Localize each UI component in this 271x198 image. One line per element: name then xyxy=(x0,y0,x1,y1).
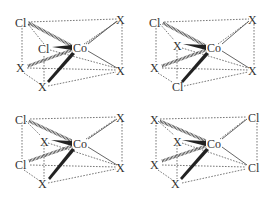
ligand-label: X xyxy=(171,177,180,191)
ligand-label: X xyxy=(173,135,182,149)
wedge-bond xyxy=(181,52,209,83)
ligand-label: Cl xyxy=(248,111,260,125)
ligand-label: Cl xyxy=(15,16,27,30)
isomer-3: Cl X Co X Cl X X xyxy=(15,111,125,191)
ligand-label: Cl xyxy=(248,161,260,175)
isomer-diagram: Cl Cl Co X X X X Cl X Co X X X Cl xyxy=(0,0,271,198)
wedge-bond xyxy=(52,45,72,50)
ligand-label: X xyxy=(38,177,47,191)
ligand-label: Cl xyxy=(15,113,27,127)
ligand-label: Cl xyxy=(172,80,184,94)
ligand-label: Cl xyxy=(149,16,161,30)
ligand-label: X xyxy=(116,64,125,78)
ligand-label: X xyxy=(248,64,257,78)
isomer-1: Cl Cl Co X X X X xyxy=(15,13,125,94)
ligand-label: X xyxy=(150,113,159,127)
wedge-bond xyxy=(182,140,206,146)
ligand-label: X xyxy=(248,13,257,27)
ligand-label: Cl xyxy=(15,158,27,172)
center-atom-label: Co xyxy=(73,137,87,151)
isomer-4: X X Co Cl X Cl X xyxy=(150,111,260,191)
ligand-label: X xyxy=(116,161,125,175)
ligand-label: X xyxy=(173,39,182,53)
ligand-label: X xyxy=(16,61,25,75)
ligand-label: X xyxy=(116,13,125,27)
ligand-label: Cl xyxy=(38,42,50,56)
center-atom-label: Co xyxy=(207,137,221,151)
ligand-label: X xyxy=(150,158,159,172)
hashed-bond xyxy=(28,23,72,66)
ligand-label: X xyxy=(150,61,159,75)
center-atom-label: Co xyxy=(73,41,87,55)
wedge-bond xyxy=(47,52,75,83)
ligand-label: X xyxy=(38,80,47,94)
center-atom-label: Co xyxy=(207,41,221,55)
ligand-label: X xyxy=(116,111,125,125)
ligand-label: X xyxy=(40,135,49,149)
isomer-2: Cl X Co X X X Cl xyxy=(149,13,257,94)
